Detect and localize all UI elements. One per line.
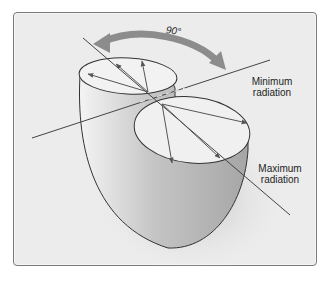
angle-label: 90° [165, 24, 182, 37]
maximum-radiation-label: Maximum radiation [252, 163, 308, 185]
radiation-pattern-diagram [0, 0, 327, 281]
minimum-radiation-label: Minimum radiation [240, 76, 304, 98]
